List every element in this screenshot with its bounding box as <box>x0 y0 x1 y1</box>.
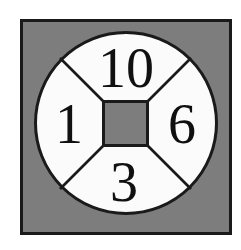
sector-bottom-label: 3 <box>110 151 138 213</box>
sector-top-label: 10 <box>98 37 154 99</box>
wheel-diagram: 10 6 3 1 <box>0 0 241 250</box>
segmented-wheel-figure: 10 6 3 1 <box>0 0 241 250</box>
center-hub <box>104 102 148 146</box>
sector-left-label: 1 <box>55 93 83 155</box>
sector-right-label: 6 <box>168 93 196 155</box>
